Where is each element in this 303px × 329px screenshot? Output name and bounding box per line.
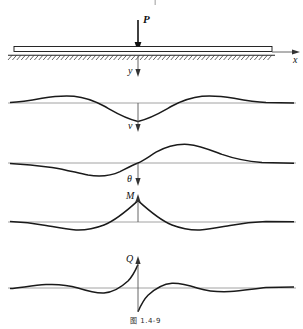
shear-arrow: [135, 256, 140, 312]
moment-arrow: [135, 194, 140, 222]
beam-strip: [14, 47, 272, 52]
deflection-curve: [10, 96, 294, 122]
slope-arrow: [135, 163, 140, 186]
label-load-P: P: [143, 14, 150, 25]
panel-beam: [8, 20, 300, 77]
elastic-foundation: [8, 55, 275, 60]
y-axis-arrow: [135, 55, 140, 77]
label-shear-Q: Q: [126, 254, 133, 264]
label-y-axis: y: [128, 66, 132, 76]
slope-curve: [10, 144, 294, 176]
panel-shear: [8, 256, 296, 312]
shear-curve-left: [10, 265, 138, 293]
label-deflection-v: v: [128, 121, 132, 131]
top-edge-artifact: [155, 0, 156, 5]
figure-caption: 图 1.4-9: [130, 315, 161, 325]
panel-slope: [8, 144, 296, 186]
panel-deflection: [8, 96, 296, 132]
beam-elastic-foundation-figure: [0, 0, 303, 329]
panel-moment: [8, 194, 296, 230]
moment-curve: [10, 201, 294, 230]
foundation-hatching: [8, 55, 272, 60]
label-slope-theta: θ: [127, 174, 132, 184]
deflection-arrow: [135, 103, 140, 132]
shear-curve-right: [138, 283, 294, 311]
label-moment-M: M: [126, 191, 134, 201]
label-x-axis: x: [293, 55, 297, 65]
